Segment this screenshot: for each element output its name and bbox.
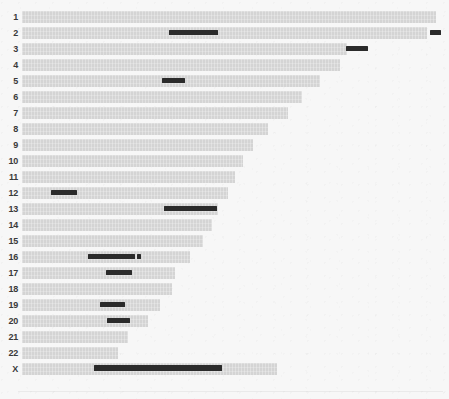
chromosome-bar-10	[22, 155, 243, 167]
chromosome-row-5: 5	[0, 74, 449, 88]
chromosome-bar-9	[22, 139, 253, 151]
chromosome-bar-6	[22, 91, 302, 103]
chromosome-row-17: 17	[0, 266, 449, 280]
chromosome-bar-4	[22, 59, 340, 71]
chromosome-bar-1	[22, 11, 436, 23]
chromosome-label-2: 2	[0, 26, 18, 40]
bottom-divider	[18, 391, 443, 392]
marker-segment-19-1	[100, 302, 125, 307]
chromosome-label-15: 15	[0, 234, 18, 248]
marker-segment-5-1	[162, 78, 185, 83]
chromosome-bar-18	[22, 283, 172, 295]
chromosome-row-21: 21	[0, 330, 449, 344]
chromosome-row-11: 11	[0, 170, 449, 184]
chromosome-label-9: 9	[0, 138, 18, 152]
chromosome-bar-7	[22, 107, 288, 119]
chromosome-bar-11	[22, 171, 235, 183]
chromosome-bar-8	[22, 123, 268, 135]
chromosome-row-14: 14	[0, 218, 449, 232]
marker-segment-2-1	[169, 30, 218, 35]
chromosome-label-20: 20	[0, 314, 18, 328]
chromosome-bar-14	[22, 219, 212, 231]
chromosome-ideogram-figure: 12345678910111213141516171819202122X	[0, 0, 449, 399]
chromosome-row-18: 18	[0, 282, 449, 296]
chromosome-label-22: 22	[0, 346, 18, 360]
chromosome-row-x: X	[0, 362, 449, 376]
chromosome-row-19: 19	[0, 298, 449, 312]
chromosome-label-19: 19	[0, 298, 18, 312]
marker-segment-3-1	[346, 46, 368, 51]
chromosome-label-4: 4	[0, 58, 18, 72]
chromosome-row-7: 7	[0, 106, 449, 120]
chromosome-label-10: 10	[0, 154, 18, 168]
chromosome-row-4: 4	[0, 58, 449, 72]
chromosome-row-1: 1	[0, 10, 449, 24]
chromosome-label-17: 17	[0, 266, 18, 280]
chromosome-bar-15	[22, 235, 203, 247]
chromosome-label-12: 12	[0, 186, 18, 200]
chromosome-bar-21	[22, 331, 128, 343]
chromosome-label-11: 11	[0, 170, 18, 184]
chromosome-bar-2	[22, 27, 427, 39]
chromosome-row-3: 3	[0, 42, 449, 56]
marker-segment-16-1	[88, 254, 135, 259]
chromosome-row-22: 22	[0, 346, 449, 360]
marker-segment-17-1	[106, 270, 132, 275]
marker-segment-2-2	[430, 30, 441, 35]
chromosome-row-13: 13	[0, 202, 449, 216]
chromosome-row-12: 12	[0, 186, 449, 200]
chromosome-row-6: 6	[0, 90, 449, 104]
chromosome-bar-19	[22, 299, 160, 311]
marker-segment-12-1	[51, 190, 77, 195]
chromosome-label-x: X	[0, 362, 18, 376]
chromosome-row-16: 16	[0, 250, 449, 264]
chromosome-label-14: 14	[0, 218, 18, 232]
chromosome-label-16: 16	[0, 250, 18, 264]
marker-segment-x-1	[94, 365, 222, 371]
marker-segment-13-1	[164, 206, 217, 211]
chromosome-row-15: 15	[0, 234, 449, 248]
chromosome-row-20: 20	[0, 314, 449, 328]
chromosome-label-13: 13	[0, 202, 18, 216]
chromosome-label-8: 8	[0, 122, 18, 136]
chromosome-row-10: 10	[0, 154, 449, 168]
chromosome-label-7: 7	[0, 106, 18, 120]
chromosome-label-1: 1	[0, 10, 18, 24]
chromosome-bar-17	[22, 267, 175, 279]
chromosome-row-2: 2	[0, 26, 449, 40]
chromosome-label-3: 3	[0, 42, 18, 56]
marker-segment-20-1	[107, 318, 130, 323]
chromosome-row-8: 8	[0, 122, 449, 136]
chromosome-label-18: 18	[0, 282, 18, 296]
chromosome-bar-22	[22, 347, 118, 359]
marker-segment-16-2	[137, 254, 141, 259]
chromosome-label-5: 5	[0, 74, 18, 88]
chromosome-label-6: 6	[0, 90, 18, 104]
chromosome-row-9: 9	[0, 138, 449, 152]
chromosome-label-21: 21	[0, 330, 18, 344]
chromosome-bar-3	[22, 43, 347, 55]
